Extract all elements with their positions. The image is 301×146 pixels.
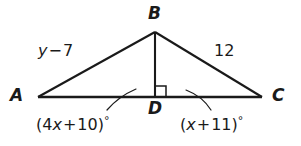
leader-line-right-angle — [186, 90, 211, 110]
angle-label-left-variable: x — [52, 115, 61, 134]
angle-label-left-operator: + — [62, 115, 77, 134]
angle-label-right: (x+11)° — [180, 115, 243, 133]
vertex-label-b: B — [148, 5, 161, 22]
angle-label-right-degree-icon: ° — [238, 114, 244, 127]
side-label-ab-operator: − — [47, 41, 62, 60]
side-label-ab-number: 7 — [63, 41, 73, 60]
angle-label-left-number: 10) — [77, 115, 104, 134]
angle-label-left-degree-icon: ° — [104, 114, 110, 127]
angle-label-right-operator: + — [196, 115, 211, 134]
angle-label-left: (4x+10)° — [36, 115, 109, 133]
angle-label-right-variable: x — [186, 115, 195, 134]
side-label-bc: 12 — [214, 43, 234, 59]
segment-bc — [155, 32, 262, 97]
right-angle-marker-icon — [155, 86, 166, 97]
vertex-label-d: D — [148, 100, 162, 117]
angle-label-left-open: (4 — [36, 115, 52, 134]
geometry-figure: B A C D y−7 12 (4x+10)° (x+11)° — [0, 0, 301, 146]
vertex-label-c: C — [272, 87, 284, 104]
angle-label-right-number: 11) — [211, 115, 238, 134]
leader-line-left-angle — [107, 89, 136, 110]
vertex-label-a: A — [10, 87, 23, 104]
side-label-ab: y−7 — [38, 43, 73, 59]
